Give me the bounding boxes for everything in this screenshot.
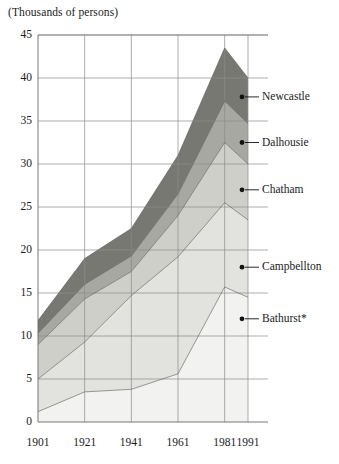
area-series-group bbox=[38, 48, 248, 422]
legend-marker-dot bbox=[240, 95, 245, 100]
y-axis-tick-label: 0 bbox=[6, 416, 32, 428]
x-axis-tick-label: 1901 bbox=[18, 437, 58, 449]
chart-canvas bbox=[0, 0, 339, 464]
x-axis-tick-label: 1991 bbox=[228, 437, 268, 449]
y-axis-tick-label: 35 bbox=[6, 115, 32, 127]
y-axis-tick-label: 15 bbox=[6, 287, 32, 299]
y-axis-tick-label: 25 bbox=[6, 201, 32, 213]
legend-label-newcastle: Newcastle bbox=[262, 91, 310, 103]
legend-marker-dot bbox=[240, 140, 245, 145]
y-axis-tick-label: 20 bbox=[6, 244, 32, 256]
x-axis-tick-label: 1921 bbox=[65, 437, 105, 449]
y-axis-tick-label: 30 bbox=[6, 158, 32, 170]
legend-label-chatham: Chatham bbox=[262, 184, 304, 196]
x-axis-tick-label: 1941 bbox=[111, 437, 151, 449]
y-axis-tick-label: 40 bbox=[6, 72, 32, 84]
stacked-area-chart: (Thousands of persons) 45403530252015105… bbox=[0, 0, 339, 464]
legend-label-dalhousie: Dalhousie bbox=[262, 137, 309, 149]
legend-marker-dot bbox=[240, 265, 245, 270]
legend-marker-dot bbox=[240, 316, 245, 321]
y-axis-tick-label: 10 bbox=[6, 330, 32, 342]
legend-label-bathurst: Bathurst* bbox=[262, 313, 307, 325]
y-axis-tick-label: 5 bbox=[6, 373, 32, 385]
y-axis-tick-label: 45 bbox=[6, 29, 32, 41]
x-axis-tick-label: 1961 bbox=[158, 437, 198, 449]
legend-label-campbellton: Campbellton bbox=[262, 261, 321, 273]
legend-marker-dot bbox=[240, 187, 245, 192]
